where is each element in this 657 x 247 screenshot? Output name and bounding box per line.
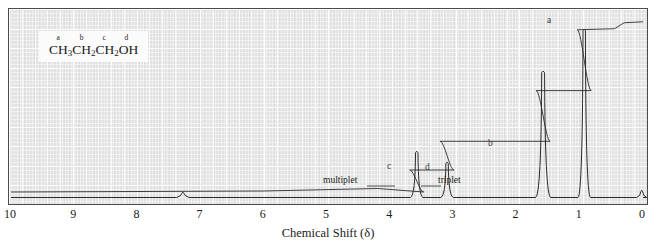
- x-tick-0: 0: [639, 207, 645, 222]
- structure-atom-letters: abcd: [49, 34, 138, 43]
- x-tick-7: 7: [197, 207, 203, 222]
- compound-structure-label: abcd CH3CH2CH2OH: [39, 31, 148, 62]
- x-tick-4: 4: [386, 207, 392, 222]
- structure-formula: CH3CH2CH2OH: [49, 43, 138, 58]
- structure-letter-a: a: [57, 34, 60, 42]
- x-axis: 109876543210 ppm Chemical Shift (δ): [8, 205, 648, 247]
- spectrum-plot-area: abcd CH3CH2CH2OH abcd multiplettriplet: [8, 8, 648, 205]
- annotation-multiplet: multiplet: [323, 175, 357, 185]
- x-tick-3: 3: [449, 207, 455, 222]
- peak-label-a: a: [547, 15, 551, 25]
- x-tick-1: 1: [576, 207, 582, 222]
- x-tick-5: 5: [323, 207, 329, 222]
- peak-label-c: c: [387, 161, 391, 171]
- x-tick-8: 8: [133, 207, 139, 222]
- annotation-triplet: triplet: [438, 175, 461, 185]
- x-axis-caption: Chemical Shift (δ): [8, 226, 648, 241]
- structure-letter-d: d: [124, 34, 128, 42]
- structure-letter-c: c: [103, 34, 106, 42]
- peak-label-d: d: [425, 162, 430, 172]
- x-tick-6: 6: [260, 207, 266, 222]
- nmr-figure: abcd CH3CH2CH2OH abcd multiplettriplet 1…: [0, 0, 657, 247]
- peak-label-b: b: [488, 138, 493, 148]
- structure-letter-b: b: [80, 34, 84, 42]
- x-tick-10: 10: [4, 207, 16, 222]
- x-tick-2: 2: [513, 207, 519, 222]
- x-tick-9: 9: [70, 207, 76, 222]
